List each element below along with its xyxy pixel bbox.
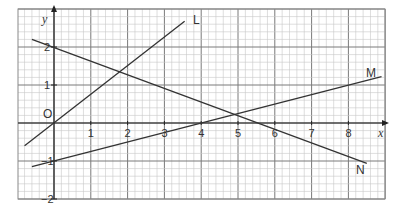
x-axis-label: x [377,126,384,140]
axes [18,5,389,199]
line-label-M: M [366,66,376,80]
y-tick-label: 1 [44,79,50,91]
x-tick-label: 7 [309,127,315,139]
x-tick-label: 4 [198,127,204,139]
x-tick-label: 8 [345,127,351,139]
origin-label: O [43,107,52,121]
y-tick-label: −1 [41,155,54,167]
grid [18,9,385,199]
x-tick-label: 2 [125,127,131,139]
coordinate-graph: LMN1234567821−1−2Oxy [0,0,401,213]
line-label-N: N [356,163,365,177]
line-label-L: L [193,13,200,27]
x-tick-label: 1 [88,127,94,139]
y-tick-label: −2 [41,193,54,205]
y-axis-label: y [41,12,48,26]
x-tick-label: 5 [235,127,241,139]
x-tick-label: 3 [161,127,167,139]
x-tick-label: 6 [272,127,278,139]
y-tick-label: 2 [44,41,50,53]
lines [25,21,382,167]
